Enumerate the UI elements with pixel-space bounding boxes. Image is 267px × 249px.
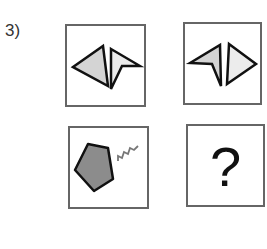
pentagon-zigzag-icon [70,128,147,207]
triangles-pair-icon [67,26,144,105]
triangles-pair-mirrored-icon [185,24,260,103]
cell-bottom-right: ? [186,124,265,207]
question-number: 3) [5,21,20,41]
cell-top-left [65,24,146,107]
cell-top-right [183,22,262,105]
question-mark: ? [188,134,263,199]
cell-bottom-left [68,126,149,209]
